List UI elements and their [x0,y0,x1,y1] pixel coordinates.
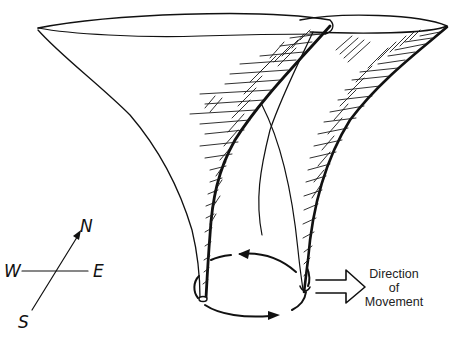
compass [22,230,88,310]
compass-south-label: S [18,314,29,331]
movement-label-line2: of [354,281,434,295]
rotation-arrows [194,249,309,320]
compass-west-label: W [4,263,21,280]
compass-east-label: E [93,263,104,280]
compass-north-label: N [80,218,93,235]
movement-label-line3: Movement [354,295,434,309]
direction-of-movement-label: Direction of Movement [354,267,434,309]
left-funnel [38,14,333,302]
movement-label-line1: Direction [354,267,434,281]
